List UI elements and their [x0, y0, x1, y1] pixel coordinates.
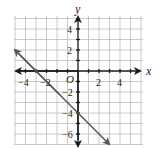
y-tick-label: −4	[62, 108, 73, 119]
origin-label: O	[66, 73, 74, 85]
graphed-line-start	[15, 50, 60, 95]
y-tick-label: −2	[62, 87, 73, 98]
x-tick-label: 4	[117, 77, 122, 88]
y-tick-label: −6	[62, 129, 73, 140]
y-tick-label: 2	[67, 45, 72, 56]
x-tick-label: 2	[96, 77, 101, 88]
y-axis-label: y	[74, 2, 81, 16]
x-axis-label: x	[145, 64, 152, 78]
x-tick-label: −2	[40, 77, 51, 88]
y-tick-label: 4	[67, 24, 72, 35]
x-tick-label: −4	[18, 77, 29, 88]
coordinate-graph: y x O −4 −2 2 4 4 2 −2 −4 −6	[0, 0, 162, 149]
